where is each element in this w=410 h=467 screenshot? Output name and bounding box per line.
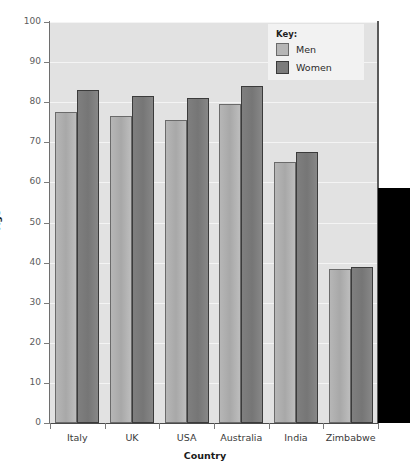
y-tick-label: 70	[1, 137, 41, 146]
y-tick-label: 0	[1, 418, 41, 427]
y-tick-label: 20	[1, 338, 41, 347]
x-tick-label: Australia	[214, 432, 269, 443]
x-tick	[159, 423, 160, 429]
y-axis-title: Age	[0, 210, 2, 230]
y-tick-label: 50	[1, 218, 41, 227]
bar-italy-men	[55, 112, 77, 423]
legend-item-men: Men	[276, 42, 364, 57]
x-tick	[50, 423, 51, 429]
y-tick	[44, 182, 50, 183]
bar-india-women	[296, 152, 318, 423]
y-tick	[44, 102, 50, 103]
x-tick	[378, 423, 379, 429]
y-tick	[44, 343, 50, 344]
x-tick-label: Italy	[50, 432, 105, 443]
y-tick-label: 10	[1, 378, 41, 387]
y-tick-label: 30	[1, 298, 41, 307]
bar-uk-men	[110, 116, 132, 423]
gridline	[50, 22, 378, 23]
legend-title: Key:	[276, 29, 364, 39]
x-tick-label: USA	[159, 432, 214, 443]
x-axis-title: Country	[0, 450, 410, 461]
x-tick	[214, 423, 215, 429]
plot-area	[50, 22, 378, 423]
bar-zimbabwe-women	[351, 267, 373, 423]
x-tick	[105, 423, 106, 429]
y-tick	[44, 303, 50, 304]
y-tick	[44, 383, 50, 384]
y-tick	[44, 142, 50, 143]
legend-swatch-men-icon	[276, 43, 289, 56]
legend-swatch-women-icon	[276, 61, 289, 74]
x-tick	[269, 423, 270, 429]
x-tick	[323, 423, 324, 429]
bar-usa-women	[187, 98, 209, 423]
legend: Key: Men Women	[268, 24, 364, 80]
x-tick-label: Zimbabwe	[323, 432, 378, 443]
bar-australia-women	[241, 86, 263, 423]
y-tick	[44, 62, 50, 63]
y-tick-label: 40	[1, 258, 41, 267]
y-tick	[44, 22, 50, 23]
bar-chart: 0102030405060708090100 ItalyUKUSAAustral…	[0, 0, 410, 467]
bar-italy-women	[77, 90, 99, 423]
y-tick-label: 60	[1, 177, 41, 186]
y-tick	[44, 263, 50, 264]
black-overlay-region	[378, 188, 410, 423]
y-tick	[44, 223, 50, 224]
x-tick-label: UK	[105, 432, 160, 443]
bar-usa-men	[165, 120, 187, 423]
bar-australia-men	[219, 104, 241, 423]
x-tick-label: India	[269, 432, 324, 443]
y-tick-label: 90	[1, 57, 41, 66]
bar-india-men	[274, 162, 296, 423]
legend-label-women: Women	[296, 62, 332, 73]
legend-item-women: Women	[276, 60, 364, 75]
y-tick-label: 100	[1, 17, 41, 26]
bar-zimbabwe-men	[329, 269, 351, 423]
bar-uk-women	[132, 96, 154, 423]
legend-label-men: Men	[296, 44, 316, 55]
y-tick-label: 80	[1, 97, 41, 106]
